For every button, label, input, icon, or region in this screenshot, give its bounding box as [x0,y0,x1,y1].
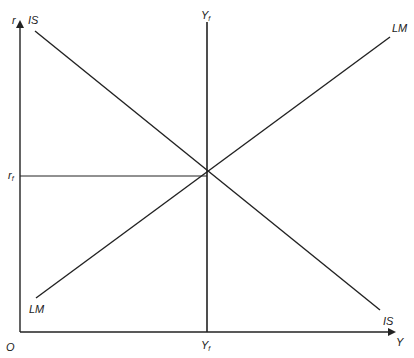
lm-curve [36,37,390,298]
rf-label: rf [8,170,14,182]
origin-label: O [6,342,15,353]
is-lm-diagram [0,0,414,358]
rf-sub: f [12,175,14,182]
y-axis-label: r [12,15,16,26]
yf-top-label: Yf [201,10,210,22]
yf-bottom-sub: f [208,345,210,352]
yf-top-sub: f [208,15,210,22]
is-top-label: IS [28,15,38,26]
lm-top-label: LM [392,23,407,34]
is-bottom-label: IS [383,316,393,327]
x-axis-label: Y [396,337,403,348]
lm-bottom-label: LM [29,304,44,315]
yf-bottom-label: Yf [201,340,210,352]
